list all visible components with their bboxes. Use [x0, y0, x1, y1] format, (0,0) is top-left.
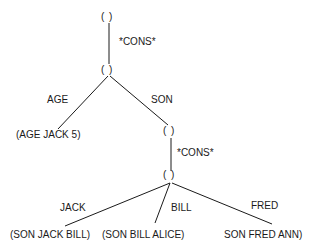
- leaf-son-jack-bill: (SON JACK BILL): [10, 230, 90, 240]
- edge-label-cons-1: *CONS*: [119, 37, 156, 47]
- leaf-son-bill-alice: (SON BILL ALICE): [102, 230, 184, 240]
- edge-label-son: SON: [151, 95, 173, 105]
- edge-label-cons-2: *CONS*: [177, 148, 214, 158]
- edge-label-bill: BILL: [171, 203, 192, 213]
- tree-node-root: ( ): [101, 12, 113, 22]
- tree-edges: [0, 0, 320, 252]
- leaf-age-jack-5: (AGE JACK 5): [16, 130, 80, 140]
- tree-node-4: ( ): [163, 170, 175, 180]
- edge-label-fred: FRED: [251, 201, 278, 211]
- leaf-son-fred-ann: SON FRED ANN): [224, 230, 302, 240]
- edge-label-age: AGE: [47, 95, 68, 105]
- tree-node-2: ( ): [101, 65, 113, 75]
- edge-label-jack: JACK: [60, 203, 86, 213]
- tree-node-3: ( ): [163, 126, 175, 136]
- edge-bill: [155, 183, 170, 223]
- tree-diagram: ( ) *CONS* ( ) AGE SON (AGE JACK 5) ( ) …: [0, 0, 320, 252]
